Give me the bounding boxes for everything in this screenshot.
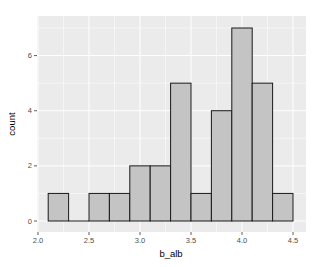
x-tick-label: 4.0 <box>237 236 247 245</box>
x-tick-label: 4.5 <box>288 236 298 245</box>
histogram-bar <box>130 166 150 221</box>
y-tick-label: 2 <box>28 161 32 170</box>
histogram-bar <box>150 166 170 221</box>
y-axis-title: count <box>6 112 17 136</box>
histogram-bar <box>89 193 109 221</box>
histogram-bar <box>232 28 252 221</box>
x-axis-title: b_alb <box>159 248 182 259</box>
y-tick-label: 0 <box>28 217 32 226</box>
histogram-bar <box>252 83 272 221</box>
histogram-bar <box>171 83 191 221</box>
histogram-bar <box>191 193 211 221</box>
x-tick-label: 2.5 <box>84 236 94 245</box>
x-tick-label: 3.5 <box>186 236 196 245</box>
y-axis: 0246 <box>28 51 37 225</box>
y-tick-label: 6 <box>28 51 32 60</box>
x-tick-label: 2.0 <box>33 236 43 245</box>
x-tick-label: 3.0 <box>135 236 145 245</box>
histogram-bar <box>273 193 293 221</box>
y-tick-label: 4 <box>28 106 32 115</box>
x-axis: 2.02.53.03.54.04.5 <box>33 232 298 245</box>
histogram-bar <box>109 193 129 221</box>
histogram-chart: 2.02.53.03.54.04.5 0246 b_alb count <box>0 0 320 267</box>
histogram-bar <box>48 193 68 221</box>
histogram-bar <box>211 111 231 221</box>
